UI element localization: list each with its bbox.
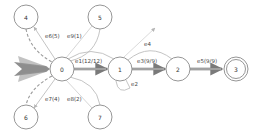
edge-label-e7: e7(4): [45, 96, 60, 102]
node-label: 0: [60, 66, 64, 73]
node-3-final[interactable]: 3: [224, 57, 248, 81]
edge-e7[interactable]: [34, 79, 55, 108]
node-5[interactable]: 5: [88, 5, 112, 29]
node-1[interactable]: 1: [108, 57, 132, 81]
edge-label-e9: e9(1): [67, 33, 82, 39]
edge-e2[interactable]: [116, 80, 130, 90]
node-7[interactable]: 7: [88, 105, 112, 129]
node-label: 2: [176, 66, 180, 73]
node-label: 1: [118, 66, 122, 73]
node-6[interactable]: 6: [14, 105, 38, 129]
node-label: 5: [98, 14, 102, 21]
edge-label-e8: e8(2): [67, 96, 82, 102]
edge-e6[interactable]: [34, 27, 55, 59]
edge-label-e3: e3(9/9): [137, 58, 157, 64]
node-4[interactable]: 4: [14, 5, 38, 29]
edge-label-e6: e6(5): [45, 33, 60, 39]
node-label: 4: [24, 14, 28, 21]
node-label: 6: [24, 114, 28, 121]
state-diagram: 0 1 2 3 4 5 6 7 e6(5) e9(1) e1(12/12) e3…: [0, 0, 260, 135]
edge-label-e2: e2: [131, 81, 138, 87]
node-0[interactable]: 0: [50, 57, 74, 81]
node-label: 3: [234, 66, 238, 73]
edge-label-e4: e4: [144, 41, 151, 47]
node-label: 7: [98, 114, 102, 121]
entry-arrow: [14, 56, 50, 82]
edge-label-e5: e5(9/9): [197, 58, 217, 64]
node-2[interactable]: 2: [166, 57, 190, 81]
edge-label-e1: e1(12/12): [75, 58, 102, 64]
